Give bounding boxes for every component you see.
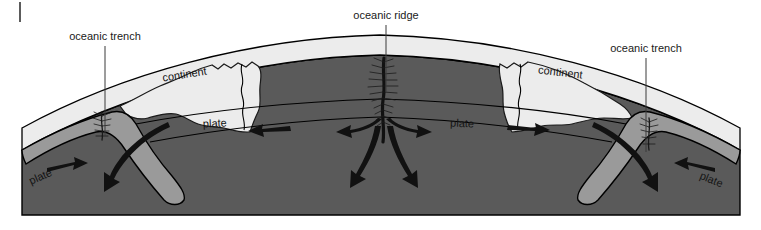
label-oceanic-ridge: oceanic ridge — [353, 9, 418, 21]
label-oceanic-trench-left: oceanic trench — [69, 30, 141, 42]
label-plate-inner-right: plate — [450, 117, 474, 130]
label-oceanic-trench-right: oceanic trench — [610, 42, 682, 54]
plate-tectonics-diagram: oceanic trench oceanic ridge oceanic tre… — [0, 0, 761, 230]
ridge-magma-conduit — [382, 58, 384, 142]
label-plate-inner-left: plate — [203, 116, 227, 129]
tectonics-cross-section-svg: oceanic trench oceanic ridge oceanic tre… — [0, 0, 761, 230]
